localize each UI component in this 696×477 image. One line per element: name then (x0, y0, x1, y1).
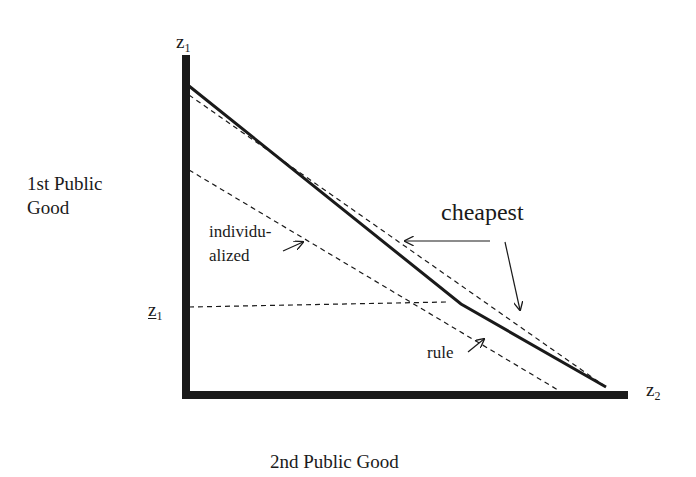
rule-annotation: rule (427, 344, 453, 361)
y-axis-end-subscript: 1 (184, 41, 190, 55)
cheapest-arrow-down (505, 242, 520, 310)
z1-lower-bound-label: z1 (148, 300, 162, 322)
y-axis-end-label: z1 (176, 32, 190, 54)
cheapest-annotation: cheapest (441, 200, 524, 224)
x-axis-end-label: z2 (646, 380, 660, 402)
z1-lower-bound-line (189, 302, 447, 307)
diagram-canvas (0, 0, 696, 477)
y-axis (182, 55, 190, 399)
individualized-line1: individu- (209, 220, 289, 244)
individualized-line2: alized (209, 244, 289, 268)
x-axis-title: 2nd Public Good (270, 452, 399, 471)
y-axis-title: 1st Public Good (27, 172, 137, 220)
z1-lower-subscript: 1 (156, 309, 162, 323)
x-axis (182, 391, 628, 399)
x-axis-end-subscript: 2 (654, 389, 660, 403)
individualized-annotation: individu- alized (209, 220, 289, 268)
